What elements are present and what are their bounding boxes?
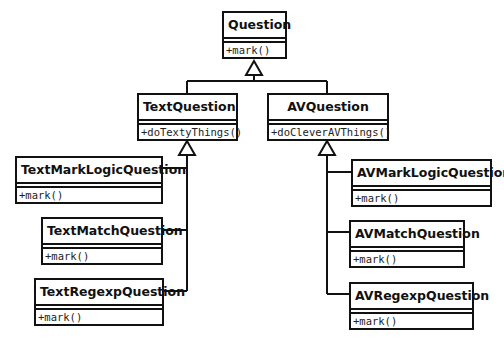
class-text-match-question[interactable]: TextMatchQuestion +mark() <box>41 217 163 265</box>
generalization-arrow-icon <box>246 61 262 75</box>
operation: +mark() <box>17 188 161 202</box>
class-name: TextMarkLogicQuestion <box>17 158 161 184</box>
class-text-regexp-question[interactable]: TextRegexpQuestion +mark() <box>34 278 164 326</box>
class-av-regexp-question[interactable]: AVRegexpQuestion +mark() <box>349 282 474 330</box>
class-name: AVRegexpQuestion <box>351 284 472 310</box>
class-name: TextMatchQuestion <box>43 219 161 245</box>
operation: +mark() <box>36 310 162 324</box>
uml-class-diagram: Question +mark() TextQuestion +doTextyTh… <box>0 0 504 341</box>
operation: +mark() <box>224 43 285 57</box>
class-av-question[interactable]: AVQuestion +doCleverAVThings() <box>267 93 389 141</box>
class-name: TextRegexpQuestion <box>36 280 162 306</box>
class-av-match-question[interactable]: AVMatchQuestion +mark() <box>349 220 465 268</box>
operation: +mark() <box>353 191 490 205</box>
operation: +doTextyThings() <box>139 125 236 139</box>
class-question[interactable]: Question +mark() <box>222 11 287 59</box>
generalization-arrow-icon <box>319 141 335 155</box>
generalization-arrow-icon <box>179 141 195 155</box>
operation: +mark() <box>351 252 463 266</box>
class-name: TextQuestion <box>139 95 236 121</box>
operation: +doCleverAVThings() <box>269 125 387 139</box>
class-name: AVQuestion <box>269 95 387 121</box>
class-av-mark-logic-question[interactable]: AVMarkLogicQuestion +mark() <box>351 159 492 207</box>
class-text-mark-logic-question[interactable]: TextMarkLogicQuestion +mark() <box>15 156 163 204</box>
class-name: AVMarkLogicQuestion <box>353 161 490 187</box>
operation: +mark() <box>43 249 161 263</box>
class-name: Question <box>224 13 285 39</box>
class-text-question[interactable]: TextQuestion +doTextyThings() <box>137 93 238 141</box>
operation: +mark() <box>351 314 472 328</box>
class-name: AVMatchQuestion <box>351 222 463 248</box>
